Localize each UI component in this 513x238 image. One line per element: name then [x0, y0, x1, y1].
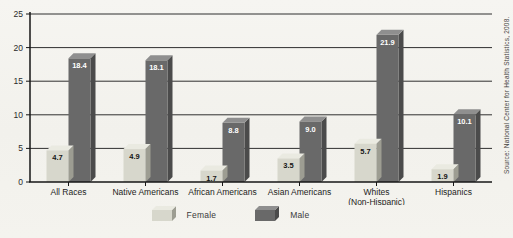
y-tick-label-5: 5 [18, 143, 23, 153]
value-label-male-4: 21.9 [380, 38, 395, 47]
bar-male-4-side [399, 30, 404, 182]
value-label-male-1: 18.1 [149, 63, 164, 72]
bar-male-0-side [91, 53, 96, 182]
legend-label-female: Female [187, 210, 217, 220]
legend-label-male: Male [290, 210, 309, 220]
value-label-male-2: 8.8 [228, 126, 238, 135]
bar-female-1-side [146, 144, 151, 182]
value-label-female-4: 5.7 [360, 147, 370, 156]
legend-swatch-male-icon [254, 204, 282, 226]
category-label-1: Native Americans [112, 187, 178, 197]
bar-male-1-side [168, 55, 173, 182]
legend-item-female: Female [151, 204, 217, 226]
y-tick-label-10: 10 [14, 110, 24, 120]
bar-female-0-side [69, 145, 74, 182]
chart-legend: Female Male [0, 204, 460, 226]
value-label-male-5: 10.1 [457, 117, 472, 126]
value-label-female-3: 3.5 [283, 161, 293, 170]
bar-chart-canvas: 051015202518.44.718.14.98.81.79.03.521.9… [0, 0, 513, 205]
category-label-4: Whites [364, 187, 390, 197]
category-label-0: All Races [51, 187, 87, 197]
bar-male-3-side [322, 117, 327, 182]
value-label-female-1: 4.9 [129, 152, 139, 161]
y-tick-label-25: 25 [14, 9, 24, 19]
value-label-female-2: 1.7 [206, 174, 216, 183]
bar-male-5-side [476, 109, 481, 182]
legend-swatch-female-icon [151, 204, 179, 226]
bar-chart: 051015202518.44.718.14.98.81.79.03.521.9… [0, 0, 513, 205]
bar-female-4-side [377, 139, 382, 182]
value-label-female-5: 1.9 [437, 172, 447, 181]
bar-female-3-side [300, 153, 305, 182]
y-tick-label-0: 0 [18, 177, 23, 187]
y-tick-label-15: 15 [14, 76, 24, 86]
source-note: Source: National Center for Health Stati… [500, 8, 512, 183]
y-tick-label-20: 20 [14, 43, 24, 53]
category-label-2: African Americans [188, 187, 257, 197]
scanned-chart-page: 051015202518.44.718.14.98.81.79.03.521.9… [0, 0, 513, 238]
value-label-male-3: 9.0 [305, 125, 315, 134]
value-label-male-0: 18.4 [72, 61, 87, 70]
category-label-3: Asian Americans [268, 187, 331, 197]
category-label-5: Hispanics [435, 187, 472, 197]
bar-male-2-side [245, 118, 250, 182]
legend-item-male: Male [254, 204, 309, 226]
value-label-female-0: 4.7 [52, 153, 62, 162]
